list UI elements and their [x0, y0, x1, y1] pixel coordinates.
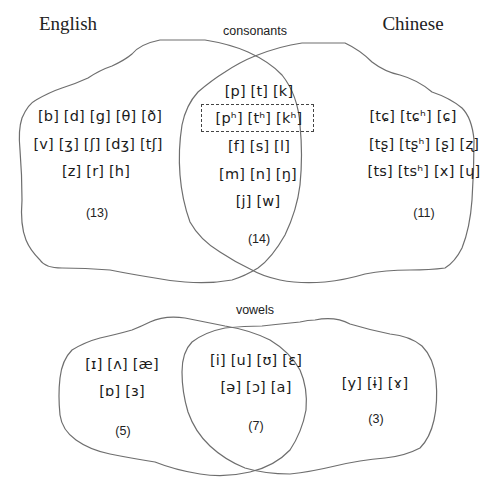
consonants-shared-row-2-aspirated: [pʰ] [tʰ] [kʰ]	[216, 111, 303, 126]
consonants-english-row-3: [z] [r] [h]	[62, 164, 130, 179]
consonants-english-row-1: [b] [d] [g] [θ] [ð]	[38, 109, 162, 124]
consonants-shared-row-3: [f] [s] [l]	[228, 139, 290, 154]
phoneme-venn-diagram: English Chinese consonants [b] [d] [g] […	[0, 0, 488, 490]
consonants-title: consonants	[223, 24, 287, 38]
consonants-chinese-row-2: [tʂ] [tʂʰ] [ʂ] [ʐ]	[369, 137, 479, 152]
vowels-chinese-row-1: [y] [ɨ] [ɤ]	[342, 376, 409, 391]
consonants-chinese-row-3: [ts] [tsʰ] [x] [ɥ]	[368, 164, 481, 179]
consonants-shared-row-5: [j] [w]	[236, 194, 281, 209]
consonants-shared-row-1: [p] [t] [k]	[225, 84, 294, 99]
consonants-shared-count: (14)	[248, 232, 270, 246]
vowels-english-row-2: [ɒ] [ɜ]	[99, 384, 145, 399]
vowels-chinese-outline	[182, 319, 437, 474]
consonants-english-row-2: [v] [ʒ] [ʃ] [dʒ] [tʃ]	[33, 137, 162, 152]
vowels-english-outline	[59, 317, 306, 476]
consonants-chinese-row-1: [tɕ] [tɕʰ] [ɕ]	[369, 109, 456, 124]
vowels-english-count: (5)	[115, 424, 130, 438]
consonants-english-outline	[19, 40, 301, 283]
vowels-english-row-1: [ɪ] [ʌ] [æ]	[85, 357, 159, 372]
consonants-chinese-count: (11)	[413, 206, 434, 220]
venn-outlines	[0, 0, 488, 490]
vowels-chinese-count: (3)	[368, 412, 383, 426]
vowels-shared-row-1: [i] [u] [ʊ] [ɛ]	[210, 353, 302, 368]
vowels-shared-count: (7)	[248, 419, 263, 433]
english-label: English	[39, 13, 97, 35]
vowels-shared-row-2: [ə] [ɔ] [a]	[220, 380, 291, 395]
consonants-english-count: (13)	[86, 206, 108, 220]
consonants-shared-row-4: [m] [n] [ŋ]	[219, 167, 297, 182]
chinese-label: Chinese	[382, 13, 443, 35]
vowels-title: vowels	[236, 303, 274, 317]
